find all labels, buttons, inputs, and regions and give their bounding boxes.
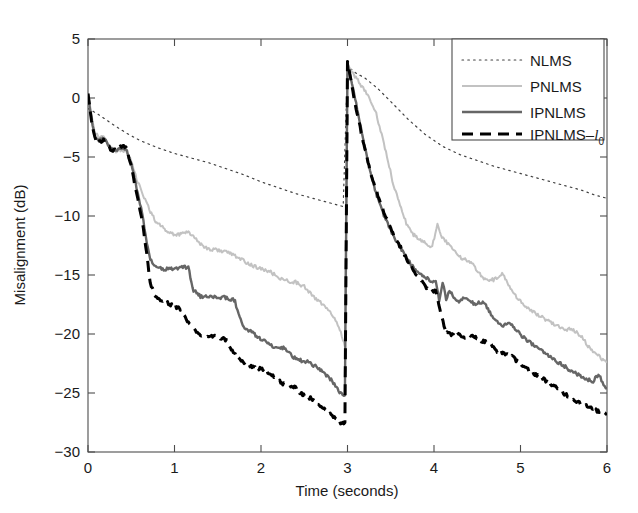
y-tick-label: −10 [55,207,80,224]
legend-label-nlms: NLMS [530,52,572,69]
y-tick-label: −5 [63,148,80,165]
figure-container: 012345650−5−10−15−20−25−30 Time (seconds… [0,0,638,513]
chart-canvas: 012345650−5−10−15−20−25−30 Time (seconds… [0,0,638,513]
legend[interactable]: NLMSPNLMSIPNLMSIPNLMS–l0 [452,39,604,147]
y-tick-label: −15 [55,266,80,283]
legend-label-pnlms: PNLMS [530,78,582,95]
x-tick-label: 5 [516,459,524,476]
y-tick-label: −25 [55,384,80,401]
x-tick-label: 4 [430,459,438,476]
y-tick-label: 0 [72,89,80,106]
legend-label-ipnlms: IPNLMS [530,104,586,121]
y-tick-label: −20 [55,325,80,342]
x-tick-label: 1 [170,459,178,476]
y-axis-label: Misalignment (dB) [11,185,28,306]
x-tick-label: 0 [84,459,92,476]
y-tick-label: −30 [55,443,80,460]
y-tick-label: 5 [72,30,80,47]
x-tick-label: 3 [343,459,351,476]
x-tick-label: 6 [603,459,611,476]
x-axis-label: Time (seconds) [296,482,399,499]
x-tick-label: 2 [257,459,265,476]
